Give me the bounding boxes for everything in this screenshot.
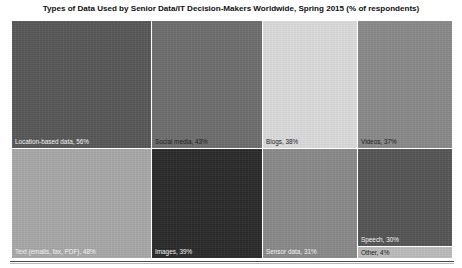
treemap-tile-text[interactable]: Text (emails, fax, PDF), 48% (12, 149, 151, 258)
treemap-tile-social-media[interactable]: Social media, 43% (152, 21, 262, 148)
treemap-tile-other[interactable]: Other, 4% (358, 247, 452, 258)
footer-divider-shadow (10, 263, 454, 264)
treemap-tile-label: Speech, 30% (361, 236, 399, 244)
treemap-tile-images[interactable]: Images, 39% (152, 149, 262, 258)
treemap-tile-location-based-data[interactable]: Location-based data, 56% (12, 21, 151, 148)
treemap-tile-videos[interactable]: Videos, 37% (358, 21, 452, 148)
treemap-tile-sensor-data[interactable]: Sensor data, 31% (263, 149, 357, 258)
treemap-tile-label: Blogs, 38% (266, 138, 298, 146)
treemap-tile-label: Location-based data, 56% (15, 138, 89, 146)
footer-divider (10, 261, 454, 262)
treemap-tile-label: Images, 39% (155, 248, 192, 256)
treemap-tile-label: Social media, 43% (155, 138, 208, 146)
treemap-tile-speech[interactable]: Speech, 30% (358, 149, 452, 246)
treemap-chart-figure: Types of Data Used by Senior Data/IT Dec… (0, 0, 462, 268)
treemap-plot-area: Location-based data, 56% Social media, 4… (12, 21, 452, 258)
treemap-tile-label: Videos, 37% (361, 138, 397, 146)
chart-title: Types of Data Used by Senior Data/IT Dec… (0, 3, 462, 14)
treemap-tile-label: Text (emails, fax, PDF), 48% (15, 248, 96, 256)
treemap-tile-blogs[interactable]: Blogs, 38% (263, 21, 357, 148)
treemap-tile-label: Other, 4% (361, 249, 389, 257)
treemap-tile-label: Sensor data, 31% (266, 248, 317, 256)
